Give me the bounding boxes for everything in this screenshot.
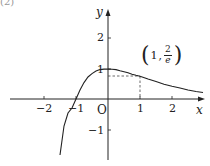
y-axis-arrow-icon xyxy=(106,9,111,16)
function-graph xyxy=(0,0,210,166)
y-tick-label: 1 xyxy=(97,64,104,75)
y-tick-label: −1 xyxy=(88,125,104,136)
x-tick-label: −2 xyxy=(36,103,52,114)
point-annotation: ( 1 , 2 e ) xyxy=(141,44,182,66)
annotation-comma: , xyxy=(159,49,163,62)
x-tick-label: −1 xyxy=(68,103,84,114)
annotation-fraction: 2 e xyxy=(164,45,172,65)
y-axis-label: y xyxy=(96,6,103,18)
x-tick-label: 2 xyxy=(169,103,176,114)
annotation-x: 1 xyxy=(151,49,158,62)
x-axis-arrow-icon xyxy=(198,97,205,102)
dashed-guides xyxy=(108,76,140,99)
origin-label: O xyxy=(97,104,107,116)
fraction-denominator: e xyxy=(165,56,170,65)
x-tick-label: 1 xyxy=(137,103,144,114)
y-tick-label: 2 xyxy=(97,32,104,43)
left-paren: ( xyxy=(141,44,150,66)
x-axis-label: x xyxy=(196,104,203,116)
right-paren: ) xyxy=(174,44,183,66)
fraction-numerator: 2 xyxy=(164,45,172,55)
